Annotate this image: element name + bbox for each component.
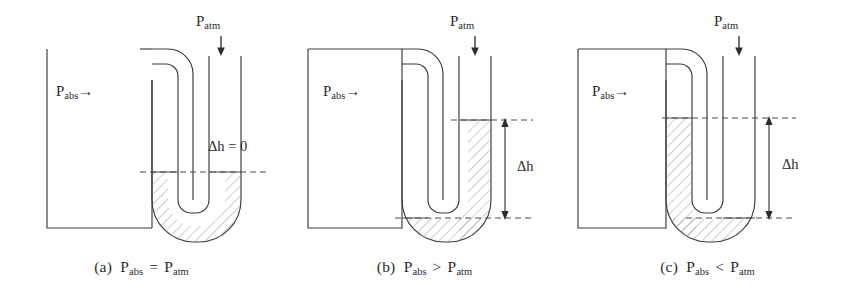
panel-b: Pabs→ Patm Δh (b) Pabs > Patm <box>283 0 566 306</box>
tank-pressure-label-b: Pabs→ <box>323 84 360 101</box>
tank-pressure-label-a: Pabs→ <box>56 84 93 101</box>
panel-c-drawing <box>566 0 849 270</box>
connector-inner-b <box>402 64 428 200</box>
caption-a: (a) Pabs = Patm <box>0 258 283 277</box>
connector-outer-b <box>402 49 443 200</box>
tank-top-c <box>578 49 666 80</box>
atmospheric-pressure-label-b: Patm <box>450 14 474 31</box>
dimension-arrow-up-b <box>501 118 508 127</box>
fluid-region-b <box>393 120 503 262</box>
atm-arrow-head-a <box>217 48 225 57</box>
tank-top-b <box>308 49 402 80</box>
height-difference-label-c: Δh <box>782 157 799 172</box>
tank-outline-c <box>578 49 666 228</box>
caption-b: (b) Pabs > Patm <box>283 258 566 277</box>
tank-pressure-label-c: Pabs→ <box>592 84 629 101</box>
panel-b-drawing <box>283 0 566 270</box>
atmospheric-pressure-label-c: Patm <box>714 14 738 31</box>
tank-outline-b <box>308 49 402 228</box>
atmospheric-pressure-label-a: Patm <box>196 14 220 31</box>
caption-c: (c) Pabs < Patm <box>566 258 849 277</box>
dimension-arrow-down-b <box>501 211 508 220</box>
tank-outline-a <box>47 49 152 228</box>
height-difference-label-a: Δh = 0 <box>208 139 247 154</box>
dimension-arrow-down-c <box>765 211 772 220</box>
fluid-region-c <box>658 118 768 262</box>
manometer-figure: Pabs→ Patm Δh = 0 (a) Pabs = Patm <box>0 0 849 306</box>
dimension-arrow-up-c <box>765 116 772 125</box>
atm-arrow-head-c <box>735 48 743 57</box>
atm-arrow-head-b <box>471 48 479 57</box>
panel-a: Pabs→ Patm Δh = 0 (a) Pabs = Patm <box>0 0 283 306</box>
panel-a-drawing <box>0 0 283 270</box>
height-difference-label-b: Δh <box>517 159 534 174</box>
panel-c: Pabs→ Patm Δh (c) Pabs < Patm <box>566 0 849 306</box>
